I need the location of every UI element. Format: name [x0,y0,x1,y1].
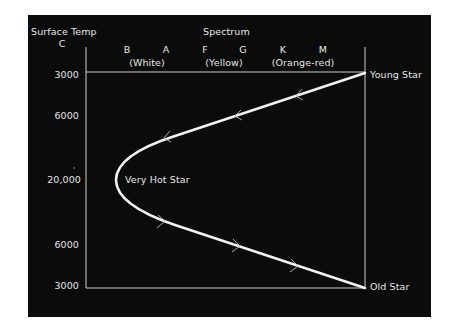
color-group: (Orange-red) [272,58,335,68]
spectral-class: K [280,45,286,55]
tick-mark [73,167,74,168]
spectral-class: G [239,45,246,55]
y-tick: 6000 [54,240,79,250]
spectral-class: M [319,45,327,55]
y-axis-title: Surface Temp [31,27,97,37]
y-axis-unit: C [59,39,66,49]
color-group: (Yellow) [205,58,242,68]
y-tick: 20,000 [47,175,81,185]
x-axis-title: Spectrum [203,27,250,37]
y-tick: 3000 [54,70,79,80]
spectral-class: B [124,45,131,55]
y-tick: 3000 [54,281,79,291]
very-hot-star-label: Very Hot Star [125,175,190,185]
spectral-class: A [163,45,170,55]
old-star-label: Old Star [370,282,409,292]
y-tick: 6000 [54,111,79,121]
spectral-class: F [202,45,208,55]
young-star-label: Young Star [370,70,422,80]
color-group: (White) [129,58,165,68]
